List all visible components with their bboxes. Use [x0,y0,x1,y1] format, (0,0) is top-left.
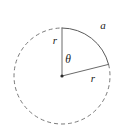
radius-label-slanted: r [91,72,96,84]
radius-label-vertical: r [53,34,58,46]
circle-sector-figure: a r r θ [0,0,121,135]
central-angle-label-theta: θ [65,53,71,65]
diagram-canvas: a r r θ [0,0,121,135]
center-point-dot [60,74,63,77]
arc-length-label-a: a [100,19,106,31]
